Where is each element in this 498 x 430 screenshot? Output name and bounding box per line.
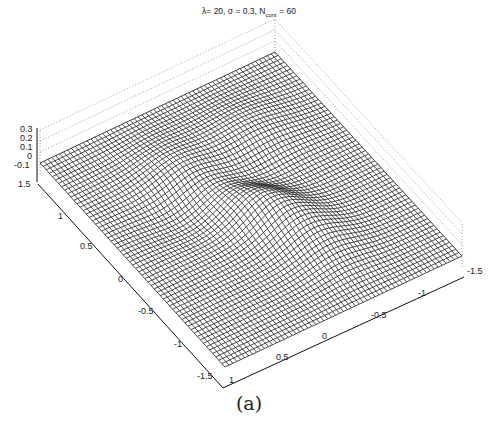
surface-mesh <box>40 52 462 367</box>
figure-caption: (a) <box>0 392 498 414</box>
right-tick-label: 0.5 <box>276 352 289 362</box>
right-tick-label: -0.5 <box>371 310 387 320</box>
z-tick-label: -0.1 <box>14 160 30 170</box>
right-tick-label: -1.5 <box>467 266 483 276</box>
left-tick-label: -1 <box>174 339 182 349</box>
right-tick-label: -1 <box>418 288 426 298</box>
axis-lines <box>37 128 464 388</box>
surface-plot: 0.30.20.10-0.11.510.50-0.5-1-1.510.50-0.… <box>0 0 498 430</box>
right-tick-label: 0 <box>322 331 327 341</box>
left-tick-label: -0.5 <box>138 306 154 316</box>
left-tick-label: -1.5 <box>197 371 213 381</box>
left-tick-label: 0 <box>118 274 123 284</box>
left-tick-label: 1.5 <box>18 179 31 189</box>
right-tick-label: 1 <box>229 375 234 385</box>
left-tick-label: 0.5 <box>80 241 93 251</box>
left-tick-label: 1 <box>58 211 63 221</box>
